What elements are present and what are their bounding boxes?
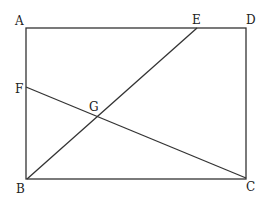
label-d: D xyxy=(246,13,256,27)
geometry-diagram: A E D F G B C xyxy=(0,0,270,201)
rectangle-abcd xyxy=(26,28,246,179)
label-g: G xyxy=(89,100,99,114)
label-c: C xyxy=(246,180,255,194)
label-b: B xyxy=(16,182,25,196)
segment-fc xyxy=(26,87,246,178)
label-a: A xyxy=(14,14,24,28)
label-f: F xyxy=(15,82,23,96)
label-e: E xyxy=(192,13,201,27)
segment-be xyxy=(27,28,197,179)
